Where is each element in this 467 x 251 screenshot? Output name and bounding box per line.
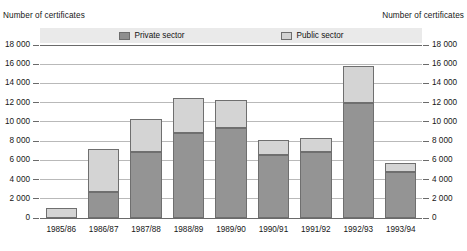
y-axis-tick-right — [423, 160, 429, 161]
bar-group[interactable] — [173, 98, 204, 218]
x-axis-tick-label: 1992/93 — [337, 226, 379, 234]
y-axis-tick-label-left: 0 — [25, 214, 30, 222]
bar-segment-public[interactable] — [343, 66, 374, 103]
legend-swatch-public-icon — [281, 32, 292, 40]
legend-item-public-sector: Public sector — [281, 31, 344, 40]
y-axis-tick-label-right: 2 000 — [432, 195, 453, 203]
x-axis-tick-label: 1990/91 — [252, 226, 294, 234]
y-axis-tick-label-left: 4 000 — [10, 176, 31, 184]
y-axis-tick-left — [33, 198, 39, 199]
legend-label-public: Public sector — [297, 31, 344, 40]
y-axis-tick-left — [33, 83, 39, 84]
x-axis-tick-label: 1993/94 — [380, 226, 422, 234]
bar-segment-private[interactable] — [130, 152, 161, 218]
y-axis-tick-label-right: 16 000 — [432, 60, 457, 68]
bar-segment-private[interactable] — [258, 155, 289, 218]
bar-segment-public[interactable] — [88, 149, 119, 192]
y-axis-tick-label-left: 12 000 — [5, 99, 30, 107]
y-axis-tick-left — [33, 64, 39, 65]
y-axis-tick-label-right: 6 000 — [432, 156, 453, 164]
legend-item-private-sector: Private sector — [119, 31, 185, 40]
y-axis-tick-label-right: 18 000 — [432, 41, 457, 49]
y-axis-tick-label-right: 12 000 — [432, 99, 457, 107]
y-axis-tick-right — [423, 83, 429, 84]
y-axis-tick-left — [33, 160, 39, 161]
bar-segment-private[interactable] — [343, 103, 374, 218]
bar-segment-public[interactable] — [130, 119, 161, 152]
y-axis-tick-left — [33, 45, 39, 46]
plot-area: 002 0002 0004 0004 0006 0006 0008 0008 0… — [40, 45, 422, 218]
y-axis-tick-left — [33, 141, 39, 142]
legend-label-private: Private sector — [135, 31, 185, 40]
y-axis-tick-right — [423, 198, 429, 199]
x-axis-tick-label: 1989/90 — [210, 226, 252, 234]
bar-group[interactable] — [300, 138, 331, 218]
y-axis-tick-label-left: 18 000 — [5, 41, 30, 49]
y-axis-tick-right — [423, 64, 429, 65]
y-axis-tick-label-right: 8 000 — [432, 137, 453, 145]
y-axis-tick-label-left: 6 000 — [10, 156, 31, 164]
y-axis-tick-left — [33, 179, 39, 180]
y-axis-tick-right — [423, 102, 429, 103]
x-axis-tick-label: 1988/89 — [167, 226, 209, 234]
y-axis-tick-label-left: 10 000 — [5, 118, 30, 126]
bar-group[interactable] — [215, 100, 246, 218]
x-axis-tick-label: 1986/87 — [82, 226, 124, 234]
y-axis-tick-right — [423, 45, 429, 46]
x-axis-tick-labels: 1985/861986/871987/881988/891989/901990/… — [40, 226, 422, 240]
x-axis-tick-label: 1991/92 — [295, 226, 337, 234]
bar-group[interactable] — [88, 149, 119, 218]
bar-segment-public[interactable] — [46, 208, 77, 218]
bar-segment-public[interactable] — [173, 98, 204, 134]
y-axis-tick-label-left: 2 000 — [10, 195, 31, 203]
legend-swatch-private-icon — [119, 32, 130, 40]
bar-chart: Number of certificates Number of certifi… — [0, 0, 467, 251]
bar-segment-private[interactable] — [215, 128, 246, 218]
bar-segment-private[interactable] — [300, 152, 331, 218]
chart-legend: Private sector Public sector — [40, 28, 422, 43]
y-axis-tick-label-left: 16 000 — [5, 60, 30, 68]
y-axis-tick-label-right: 0 — [432, 214, 437, 222]
y-axis-tick-left — [33, 121, 39, 122]
bar-segment-private[interactable] — [88, 192, 119, 218]
y-axis-tick-label-right: 10 000 — [432, 118, 457, 126]
bar-series-container — [40, 45, 422, 218]
y-axis-tick-label-right: 4 000 — [432, 176, 453, 184]
x-axis-tick-label: 1987/88 — [125, 226, 167, 234]
y-axis-tick-left — [33, 218, 39, 219]
bar-segment-public[interactable] — [300, 138, 331, 151]
x-axis-tick-label: 1985/86 — [40, 226, 82, 234]
y-axis-tick-label-right: 14 000 — [432, 79, 457, 87]
bar-segment-public[interactable] — [385, 163, 416, 172]
bar-segment-public[interactable] — [215, 100, 246, 128]
bar-segment-private[interactable] — [173, 133, 204, 218]
bar-group[interactable] — [385, 163, 416, 218]
y-axis-tick-right — [423, 141, 429, 142]
bar-segment-private[interactable] — [385, 172, 416, 218]
y-axis-tick-label-left: 14 000 — [5, 79, 30, 87]
bar-group[interactable] — [258, 140, 289, 218]
bar-group[interactable] — [343, 66, 374, 218]
y-axis-tick-right — [423, 121, 429, 122]
y-axis-tick-label-left: 8 000 — [10, 137, 31, 145]
y-axis-title-right: Number of certificates — [382, 11, 464, 20]
y-axis-tick-right — [423, 179, 429, 180]
y-axis-title-left: Number of certificates — [3, 11, 85, 20]
y-axis-tick-left — [33, 102, 39, 103]
y-axis-tick-right — [423, 218, 429, 219]
bar-group[interactable] — [130, 119, 161, 218]
bar-segment-public[interactable] — [258, 140, 289, 154]
bar-group[interactable] — [46, 208, 77, 218]
